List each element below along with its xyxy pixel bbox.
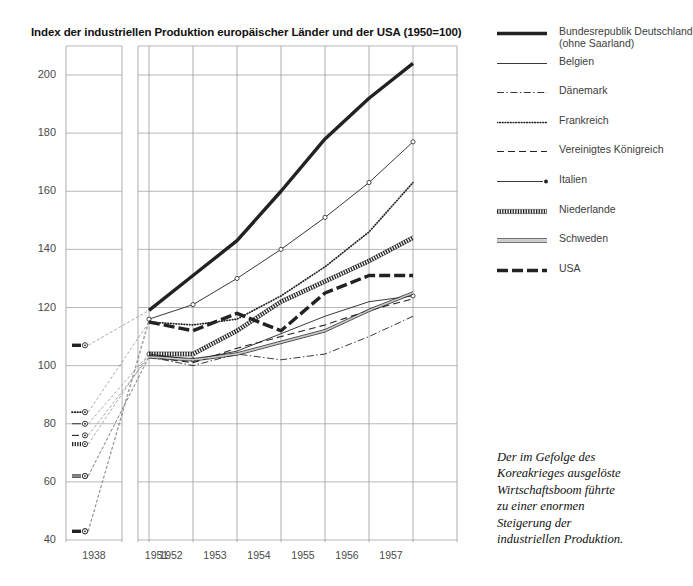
legend-swatch-double-line-icon [497,233,549,248]
legend-label: Italien [559,173,587,185]
x-axis-tick-label: 1953 [193,549,237,561]
y-axis-tick-label: 180 [26,126,56,138]
series-line [72,292,413,479]
figure-caption: Der im Gefolge desKoreakrieges ausgelöst… [497,449,673,547]
legend-label-line1: Bundesrepublik Deutschland [559,25,693,37]
y-axis-tick-label: 100 [26,359,56,371]
chart-legend: Bundesrepublik Deutschland(ohne Saarland… [497,26,673,292]
x-axis-tick-label: 1952 [149,549,193,561]
legend-swatch-thin-solid-marker-icon [497,174,549,189]
legend-label: Frankreich [559,114,609,126]
series-line [72,183,413,415]
legend-item[interactable]: Frankreich [497,115,673,130]
series-line [72,236,413,447]
legend-label: Niederlande [559,203,616,215]
caption-line: Steigerung der [497,515,673,531]
legend-item[interactable]: Niederlande [497,204,673,219]
legend-swatch-dash-dot-icon [497,85,549,100]
legend-label-line1: Niederlande [559,203,616,215]
legend-swatch-thin-solid-icon [497,56,549,71]
legend-item[interactable]: Schweden [497,233,673,248]
legend-label-line1: USA [559,262,581,274]
y-axis-tick-label: 120 [26,301,56,313]
legend-label: Vereinigtes Königreich [559,143,663,155]
legend-item[interactable]: Italien [497,174,673,189]
legend-swatch-fine-dotted-icon [497,204,549,219]
legend-label-line1: Italien [559,173,587,185]
x-axis-tick-label: 1938 [72,549,116,561]
x-axis-tick-label: 1955 [281,549,325,561]
legend-item[interactable]: Bundesrepublik Deutschland(ohne Saarland… [497,26,673,41]
legend-item[interactable]: Dänemark [497,85,673,100]
legend-label-line1: Vereinigtes Königreich [559,143,663,155]
y-axis-tick-label: 40 [26,533,56,545]
legend-swatch-dotted-icon [497,115,549,130]
legend-label-line2: (ohne Saarland) [559,37,693,49]
x-axis-tick-label: 1954 [237,549,281,561]
legend-item[interactable]: Vereinigtes Königreich [497,144,673,159]
legend-item[interactable]: USA [497,263,673,278]
legend-label: USA [559,262,581,274]
series-line [72,63,413,348]
caption-line: Koreakrieges ausgelöste [497,465,673,481]
y-axis-tick-label: 80 [26,417,56,429]
caption-line: zu einer enormen [497,498,673,514]
legend-label: Belgien [559,55,594,67]
legend-label: Bundesrepublik Deutschland(ohne Saarland… [559,25,693,50]
chart-svg [64,42,480,542]
caption-line: industriellen Produktion. [497,531,673,547]
y-axis-tick-label: 60 [26,475,56,487]
legend-swatch-thick-dashed-icon [497,263,549,278]
page-title: Index der industriellen Produktion europ… [31,26,462,38]
x-axis-tick-label: 1956 [325,549,369,561]
plot-area [64,42,480,542]
legend-label-line1: Frankreich [559,114,609,126]
series-line [72,316,413,478]
legend-label: Dänemark [559,84,607,96]
series-line [72,140,415,534]
caption-line: Der im Gefolge des [497,449,673,465]
y-axis-tick-label: 160 [26,184,56,196]
y-axis-tick-label: 200 [26,68,56,80]
legend-label: Schweden [559,232,608,244]
legend-label-line1: Schweden [559,232,608,244]
legend-label-line1: Belgien [559,55,594,67]
legend-swatch-dashed-icon [497,144,549,159]
series-line [72,299,413,438]
legend-item[interactable]: Belgien [497,56,673,71]
x-axis-tick-label: 1957 [369,549,413,561]
caption-line: Wirtschaftsboom führte [497,482,673,498]
y-axis-tick-label: 140 [26,242,56,254]
legend-swatch-thick-solid-icon [497,26,549,41]
legend-label-line1: Dänemark [559,84,607,96]
